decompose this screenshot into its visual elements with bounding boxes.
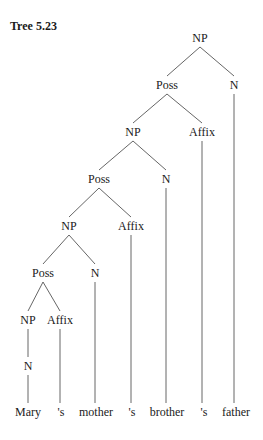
tree-node-np: NP	[61, 219, 77, 233]
tree-node-n: N	[162, 172, 171, 186]
tree-words: Mary'smother'sbrother'sfather	[15, 405, 250, 419]
tree-node-affix: Affix	[47, 313, 73, 327]
tree-edge	[69, 235, 95, 264]
tree-node-np: NP	[192, 31, 208, 45]
tree-leaf-word: 's	[58, 405, 65, 419]
tree-edge	[133, 94, 167, 123]
tree-leaf-word: 's	[201, 405, 208, 419]
tree-edge	[200, 47, 234, 76]
tree-edge	[28, 282, 43, 311]
tree-edge	[43, 235, 69, 264]
tree-edge	[69, 188, 99, 217]
tree-node-poss: Poss	[156, 78, 178, 92]
syntax-tree: NPPossNNPAffixPossNNPAffixPossNNPAffixN …	[0, 0, 263, 440]
tree-node-poss: Poss	[88, 172, 110, 186]
tree-leaf-word: Mary	[15, 405, 41, 419]
tree-edge	[99, 188, 131, 217]
tree-leaf-word: 's	[129, 405, 136, 419]
tree-edge	[167, 47, 200, 76]
tree-edge	[43, 282, 60, 311]
tree-edge	[99, 141, 133, 170]
tree-leaf-word: brother	[150, 405, 185, 419]
tree-node-n: N	[230, 78, 239, 92]
tree-leaf-word: mother	[79, 405, 113, 419]
tree-node-np: NP	[20, 313, 36, 327]
tree-node-poss: Poss	[32, 266, 54, 280]
tree-nodes: NPPossNNPAffixPossNNPAffixPossNNPAffixN	[20, 31, 238, 373]
tree-node-n: N	[91, 266, 100, 280]
tree-node-n: N	[24, 359, 33, 373]
tree-edge	[133, 141, 166, 170]
tree-leaf-word: father	[222, 405, 250, 419]
tree-node-affix: Affix	[118, 219, 144, 233]
tree-node-np: NP	[125, 125, 141, 139]
tree-edge	[167, 94, 202, 123]
tree-node-affix: Affix	[189, 125, 215, 139]
